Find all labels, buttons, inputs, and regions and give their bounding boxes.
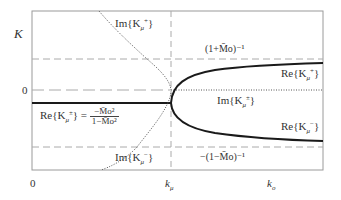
im-k-plus-label: Im{Kμ+} [115, 18, 153, 29]
y-axis-label: K [14, 27, 23, 40]
re-k-plus-label: Re{Kμ+} [281, 68, 319, 79]
lower-asymptote-label: −(1−M̄o)⁻¹ [200, 152, 245, 162]
re-k-minus-label: Re{Kμ−} [281, 121, 319, 132]
im-k-pm-label: Im{Kμ±} [217, 95, 255, 106]
dispersion-diagram [0, 0, 341, 200]
x-tick-k-mu: kμ [165, 178, 173, 189]
im-k-minus-label: Im{Kμ−} [115, 152, 153, 163]
x-origin-label: 0 [30, 178, 36, 189]
y-zero-label: 0 [22, 85, 28, 96]
x-tick-k-o: ko [267, 178, 275, 189]
upper-asymptote-label: (1+M̄o)⁻¹ [205, 44, 244, 54]
re-k-pm-formula: Re{Kμ±} = −M̄o²1−M̄o² [40, 107, 119, 126]
